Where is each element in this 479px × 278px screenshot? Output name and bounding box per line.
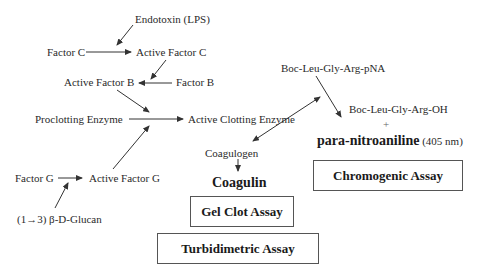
arrow-glucan-to-factor-g — [55, 183, 68, 208]
node-proclotting-enzyme: Proclotting Enzyme — [35, 113, 123, 126]
node-endotoxin: Endotoxin (LPS) — [135, 13, 210, 26]
node-para-nitroaniline: para-nitroaniline (405 nm) — [317, 133, 463, 149]
node-substrate: Boc-Leu-Gly-Arg-pNA — [281, 62, 385, 75]
node-active-clotting-enzyme: Active Clotting Enzyme — [188, 113, 295, 126]
turbidimetric-assay-label: Turbidimetric Assay — [181, 241, 294, 257]
arrow-clotting-to-substrate — [294, 97, 320, 114]
arrow-endotoxin-to-factor-c — [117, 25, 133, 45]
plus-sign: + — [383, 118, 389, 131]
chromogenic-assay-box: Chromogenic Assay — [313, 160, 463, 191]
node-coagulin: Coagulin — [212, 175, 266, 191]
node-product-oh: Boc-Leu-Gly-Arg-OH — [349, 103, 448, 116]
node-active-factor-b: Active Factor B — [64, 76, 134, 89]
arrow-active-b-to-proclotting — [117, 90, 149, 112]
turbidimetric-assay-box: Turbidimetric Assay — [157, 233, 319, 264]
node-coagulogen: Coagulogen — [205, 147, 258, 160]
pna-label: para-nitroaniline — [317, 133, 419, 148]
lal-cascade-diagram: Endotoxin (LPS) Factor C Active Factor C… — [0, 0, 479, 278]
gel-clot-assay-box: Gel Clot Assay — [190, 196, 294, 227]
pna-wavelength: (405 nm) — [422, 135, 463, 147]
gel-clot-assay-label: Gel Clot Assay — [201, 204, 283, 220]
node-factor-b: Factor B — [176, 76, 214, 89]
arrow-active-g-to-proclotting — [113, 126, 149, 169]
chromogenic-assay-label: Chromogenic Assay — [333, 168, 443, 184]
node-factor-g: Factor G — [15, 172, 54, 185]
node-glucan: (1→3) β-D-Glucan — [17, 213, 102, 226]
node-active-factor-g: Active Factor G — [89, 172, 160, 185]
arrow-substrate-to-product — [316, 76, 341, 117]
node-factor-c: Factor C — [47, 46, 85, 59]
arrow-active-c-to-factor-b — [151, 60, 166, 79]
node-active-factor-c: Active Factor C — [136, 46, 206, 59]
